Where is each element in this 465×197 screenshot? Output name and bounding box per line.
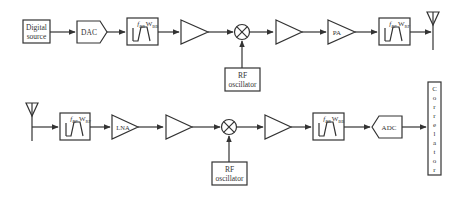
rf-oscillator-label: RF <box>225 165 234 174</box>
rx-amp-2-block <box>265 115 291 139</box>
rx-antenna <box>26 103 38 141</box>
tx-rf-filter-block <box>379 18 410 45</box>
tx-antenna <box>427 12 439 50</box>
tx-mixer <box>235 25 250 40</box>
tx-bb-filter-block <box>127 18 158 45</box>
svg-text:e: e <box>433 121 436 129</box>
svg-text:o: o <box>433 157 437 165</box>
amplifier-icon <box>276 20 302 44</box>
rf-oscillator-label: oscillator <box>229 80 257 89</box>
rf-oscillator-label: oscillator <box>216 174 244 183</box>
amplifier-icon <box>166 115 192 139</box>
svg-text:o: o <box>433 94 437 102</box>
amplifier-icon <box>265 115 291 139</box>
tx-amp-1-block <box>181 20 208 44</box>
svg-text:t: t <box>434 148 436 156</box>
rx-amp-1-block <box>166 115 192 139</box>
svg-text:l: l <box>434 130 436 138</box>
adc-label: ADC <box>382 124 397 132</box>
rx-bb-filter-block <box>313 113 344 140</box>
svg-text:C: C <box>432 85 437 93</box>
amplifier-icon <box>181 20 208 44</box>
digital-source-label: Digital <box>26 23 47 32</box>
pa-label: PA <box>333 29 341 37</box>
dac-label: DAC <box>81 28 97 37</box>
transceiver-diagram: Digital source DAC fBB WBB RF oscillator… <box>0 0 465 197</box>
tx-amp-2-block <box>276 20 302 44</box>
digital-source-label: source <box>27 32 47 41</box>
lna-label: LNA <box>116 124 130 131</box>
rx-mixer <box>222 120 237 135</box>
rf-oscillator-label: RF <box>238 71 247 80</box>
